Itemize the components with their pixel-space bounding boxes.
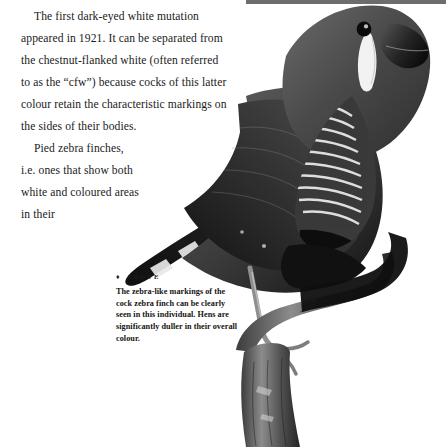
bird-cheek-patch: [358, 32, 377, 91]
body-copy: The first dark-eyed white mutation appea…: [21, 6, 229, 226]
caption-heading-row: ♦ABOVE: [116, 272, 242, 282]
caption-body: The zebra-like markings of the cock zebr…: [116, 286, 242, 345]
paragraph-2: Pied zebra finches, i.e. ones that show …: [21, 138, 141, 226]
bird-flank: [281, 244, 366, 289]
perch-branch: [236, 232, 408, 447]
photo-top-edge: [246, 0, 446, 4]
caption-heading-label: ABOVE: [127, 273, 161, 280]
book-page: The first dark-eyed white mutation appea…: [0, 0, 446, 447]
paragraph-1: The first dark-eyed white mutation appea…: [21, 6, 229, 138]
bird-leg: [250, 268, 308, 374]
bird-eye: [357, 22, 372, 37]
bird-beak: [380, 24, 428, 69]
bird-head: [282, 5, 430, 159]
bird-breast-barring: [290, 90, 390, 270]
caption-text: The zebra-like markings of the cock zebr…: [116, 286, 242, 345]
diamond-bullet-icon: ♦: [116, 273, 122, 282]
photo-caption: ♦ABOVE The zebra-like markings of the co…: [116, 272, 242, 345]
